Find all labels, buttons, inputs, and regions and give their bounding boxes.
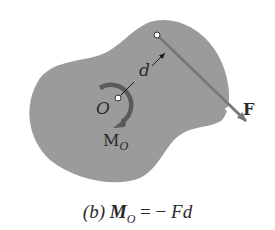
caption-moment: MO	[110, 201, 136, 222]
distance-label: d	[139, 60, 150, 80]
caption-equals: = −	[135, 201, 171, 222]
force-label: F	[243, 100, 255, 119]
force-line-dot	[225, 107, 229, 111]
caption-rhs: Fd	[171, 201, 192, 222]
caption-part: (b)	[83, 201, 105, 222]
moment-diagram: F d O MO	[0, 0, 275, 230]
figure-caption: (b) MO = − Fd	[0, 201, 275, 227]
origin-point	[115, 95, 121, 101]
force-application-point	[154, 32, 160, 38]
origin-label: O	[96, 98, 110, 118]
